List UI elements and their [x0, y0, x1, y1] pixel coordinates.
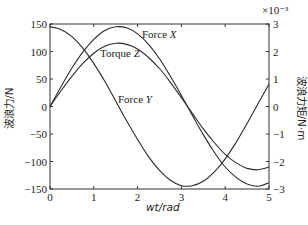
- chart: 012345150100500−50−100−1503210−1−2−3 For…: [0, 0, 308, 225]
- right-y-tick-label: 2: [273, 46, 279, 58]
- right-y-tick-label: 1: [273, 73, 279, 85]
- annotation-force-x: Force X: [142, 28, 178, 40]
- x-tick-label: 2: [135, 191, 141, 203]
- left-y-tick-label: 100: [31, 46, 48, 58]
- data-curves: [50, 27, 269, 187]
- left-y-tick-label: −50: [30, 128, 48, 140]
- left-y-tick-label: −100: [24, 156, 47, 168]
- right-y-tick-label: −2: [273, 156, 285, 168]
- x-tick-label: 1: [91, 191, 97, 203]
- right-y-axis-label: 波浪力矩/N·m: [296, 76, 308, 141]
- right-axis-multiplier: ×10⁻³: [262, 4, 289, 16]
- left-y-axis-label: 波浪力/N: [3, 87, 15, 128]
- right-y-tick-label: 0: [273, 101, 279, 113]
- right-y-tick-label: 3: [273, 18, 279, 30]
- x-tick-label: 5: [266, 191, 272, 203]
- annotation-torque-z: Torque Z: [100, 47, 141, 59]
- annotation-force-y: Force Y: [118, 93, 154, 105]
- curve-torque-z: [50, 43, 269, 170]
- right-y-tick-label: −3: [273, 183, 285, 195]
- left-y-tick-label: 150: [31, 18, 48, 30]
- left-y-tick-label: 50: [36, 73, 48, 85]
- left-y-tick-label: 0: [42, 101, 48, 113]
- axis-ticks: 012345150100500−50−100−1503210−1−2−3: [24, 18, 285, 203]
- x-tick-label: 0: [47, 191, 53, 203]
- right-y-tick-label: −1: [273, 128, 285, 140]
- x-tick-label: 4: [222, 191, 228, 203]
- x-axis-label: wt/rad: [146, 201, 180, 213]
- left-y-tick-label: −150: [24, 183, 47, 195]
